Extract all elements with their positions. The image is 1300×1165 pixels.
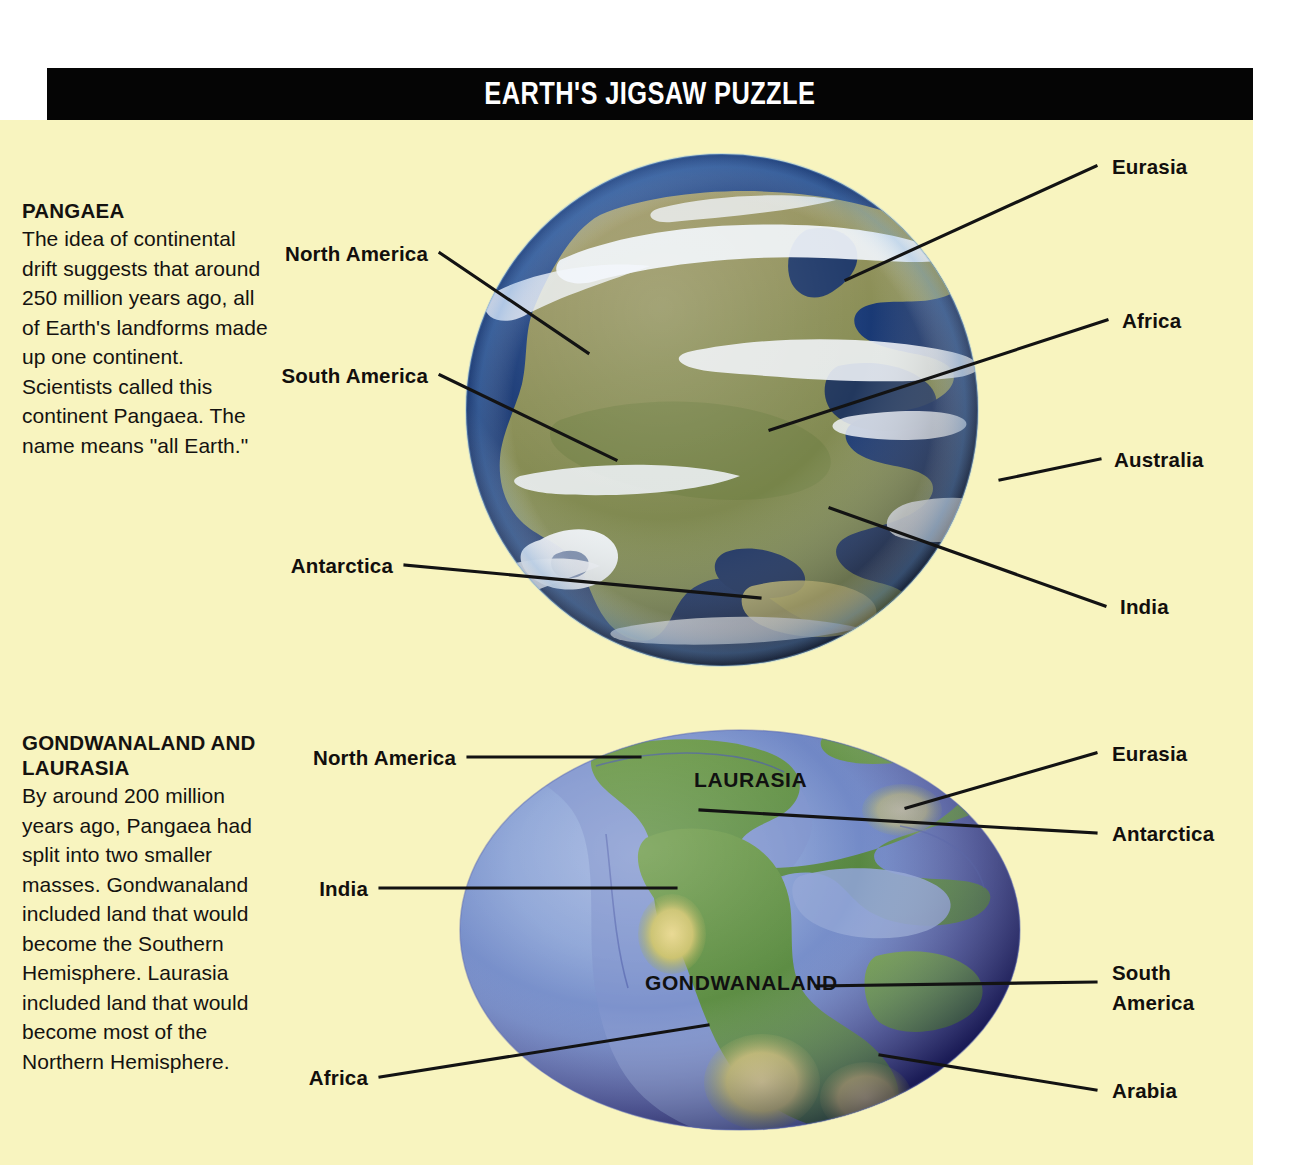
map-label-laurasia: LAURASIA: [694, 768, 807, 792]
label-pangaea-india: India: [1120, 594, 1169, 619]
label-gondwana-arabia: Arabia: [1112, 1078, 1177, 1103]
label-pangaea-africa: Africa: [1122, 308, 1181, 333]
page-title-text: EARTH'S JIGSAW PUZZLE: [484, 76, 815, 112]
title-bar: EARTH'S JIGSAW PUZZLE: [47, 68, 1253, 120]
label-gondwana-antarctica: Antarctica: [1112, 821, 1214, 846]
gondwanaland-text-block: GONDWANALAND AND LAURASIA By around 200 …: [22, 730, 268, 1076]
content-canvas: PANGAEA The idea of continental drift su…: [0, 120, 1253, 1165]
pangaea-heading: PANGAEA: [22, 198, 268, 223]
label-gondwana-india: India: [190, 876, 368, 901]
label-pangaea-antarctica: Antarctica: [140, 553, 393, 578]
map-label-gondwanaland: GONDWANALAND: [645, 971, 838, 995]
label-pangaea-australia: Australia: [1114, 447, 1204, 472]
label-gondwana-eurasia: Eurasia: [1112, 741, 1187, 766]
label-pangaea-north-america: North America: [160, 241, 428, 266]
page-title: EARTH'S JIGSAW PUZZLE: [47, 76, 1253, 112]
label-gondwana-south-america: South America: [1112, 958, 1232, 1018]
gondwanaland-body: By around 200 million years ago, Pangaea…: [22, 781, 268, 1076]
page-root: EARTH'S JIGSAW PUZZLE: [0, 0, 1300, 1165]
label-pangaea-south-america: South America: [160, 363, 428, 388]
label-gondwana-africa: Africa: [190, 1065, 368, 1090]
label-pangaea-eurasia: Eurasia: [1112, 154, 1187, 179]
pangaea-text-block: PANGAEA The idea of continental drift su…: [22, 198, 268, 460]
label-gondwana-north-america: North America: [190, 745, 456, 770]
